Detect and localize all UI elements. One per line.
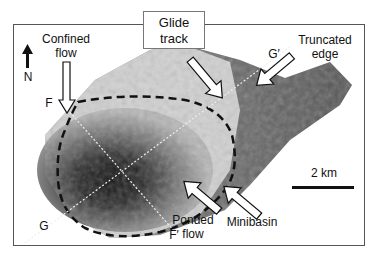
label-G-prime: G′ [266, 47, 282, 61]
label-G: G [38, 219, 50, 233]
label-confined-flow: Confinedflow [36, 32, 96, 60]
label-glide-track: Glidetrack [143, 11, 205, 49]
survey-area [37, 45, 352, 238]
label-north: N [22, 70, 34, 84]
label-truncated-edge: Truncatededge [292, 33, 358, 61]
north-arrow-icon [22, 44, 33, 68]
label-F: F [43, 96, 55, 110]
label-F-prime: F′ [166, 228, 182, 242]
label-minibasin: Minibasin [222, 215, 282, 229]
scale-bar-label: 2 km [302, 166, 346, 180]
scale-bar [292, 186, 354, 189]
